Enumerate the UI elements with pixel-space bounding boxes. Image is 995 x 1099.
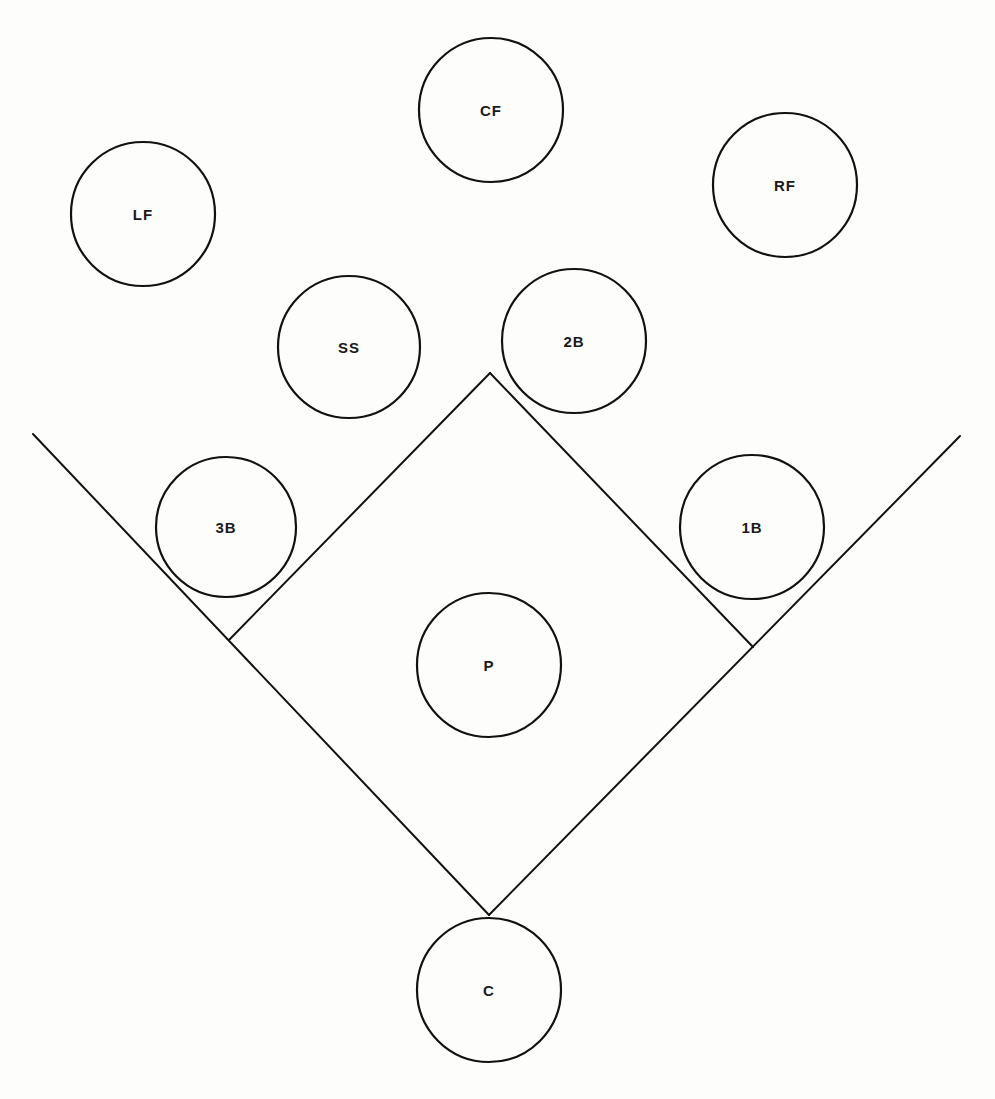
position-ss: SS <box>278 276 420 418</box>
position-2b: 2B <box>502 269 646 413</box>
fielding-positions: CFLFRFSS2B3B1BPC <box>71 38 857 1062</box>
position-p: P <box>417 593 561 737</box>
position-label: LF <box>133 206 153 223</box>
baseball-field-diagram: CFLFRFSS2B3B1BPC <box>0 0 995 1099</box>
position-label: RF <box>774 177 796 194</box>
third-to-second-basepath <box>229 373 490 640</box>
position-label: 3B <box>215 519 236 536</box>
position-label: 1B <box>741 519 762 536</box>
position-label: 2B <box>563 333 584 350</box>
position-label: SS <box>338 339 360 356</box>
position-cf: CF <box>419 38 563 182</box>
field-canvas: CFLFRFSS2B3B1BPC <box>0 0 995 1099</box>
position-1b: 1B <box>680 455 824 599</box>
position-label: CF <box>480 102 502 119</box>
position-label: P <box>483 657 494 674</box>
field-lines <box>33 373 960 915</box>
position-c: C <box>417 918 561 1062</box>
position-lf: LF <box>71 142 215 286</box>
position-3b: 3B <box>156 457 296 597</box>
position-rf: RF <box>713 113 857 257</box>
position-label: C <box>483 982 495 999</box>
third-base-foul-line <box>33 434 489 915</box>
